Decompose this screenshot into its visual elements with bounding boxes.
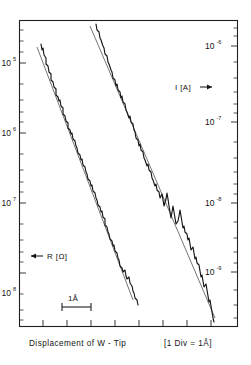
right-axis-title-group: I [A] [175,83,212,92]
bottom-axis-ticks [43,320,211,327]
x-axis-title: Displacement of W - Tip [29,339,126,348]
bottom-caption-group: Displacement of W - Tip [1 Div = 1Å] [29,338,212,348]
curve-1-fit-line [37,47,133,300]
right-tick-label-2: 10 [205,117,215,127]
scalebar-label: 1Å [68,294,78,303]
right-tick-label-3: 10 [205,198,215,208]
left-axis-ticks [20,30,27,320]
left-tick-label-4: 10 [2,288,12,298]
right-tick-exponent-4: -9 [217,265,222,271]
left-tick-label-3: 10 [2,198,12,208]
right-tick-exponent-2: -7 [217,115,222,121]
division-note: [1 Div = 1Å] [164,338,212,348]
left-axis-title-label: R [Ω] [47,252,67,261]
log-plot-svg: 10 5 10 6 10 7 10 8 [0,0,251,365]
curve-2-data-group [96,24,214,322]
right-axis-ticks [231,28,238,318]
curve-2-fit-line [90,26,215,318]
right-tick-label-4: 10 [205,267,215,277]
left-tick-exponent-2: 6 [13,126,16,132]
curve-1-measured-trace [41,44,138,305]
left-axis-labels: 10 5 10 6 10 7 10 8 [2,56,17,298]
frame-rect [20,21,238,327]
right-tick-exponent-1: -6 [217,39,222,45]
right-arrow-icon [207,84,212,89]
right-tick-exponent-3: -8 [217,196,222,202]
curve-2-fit-group [90,26,215,318]
left-tick-exponent-1: 5 [13,56,16,62]
left-tick-exponent-3: 7 [13,196,16,202]
left-tick-exponent-4: 8 [13,286,16,292]
plot-frame [20,21,238,327]
figure-container: 10 5 10 6 10 7 10 8 [0,0,251,365]
curve-1-fit-group [37,47,133,300]
left-tick-label-2: 10 [2,128,12,138]
right-tick-label-1: 10 [205,41,215,51]
scalebar-group: 1Å [62,294,91,311]
left-arrow-icon [31,253,36,258]
left-axis-title-group: R [Ω] [31,252,67,261]
curve-1-data-group [41,44,138,305]
curve-2-measured-trace [96,24,214,322]
right-axis-title-label: I [A] [175,83,191,92]
right-axis-labels: 10 -6 10 -7 10 -8 10 -9 [205,39,221,277]
left-tick-label-1: 10 [2,58,12,68]
